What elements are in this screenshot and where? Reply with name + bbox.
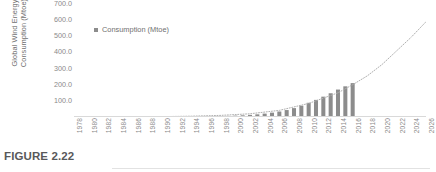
x-axis-tick: 2026 (429, 118, 436, 133)
y-axis-tick-labels: 700.0600.0500.0400.0300.0200.0100.0 (36, 4, 72, 116)
x-axis-tick: 2024 (414, 118, 421, 133)
bar (321, 97, 325, 117)
figure-caption: FIGURE 2.22 (4, 150, 74, 162)
y-axis-title: Global Wind Energy Consumption (Mtoe) (2, 0, 36, 88)
y-axis-tick: 600.0 (36, 17, 72, 24)
y-axis-tick: 500.0 (36, 33, 72, 40)
x-axis-tick-labels: 1978198019821984198619881990199219941996… (74, 118, 426, 148)
x-axis-tick: 2016 (356, 118, 363, 133)
x-axis-tick: 1992 (180, 118, 187, 133)
x-axis-tick: 1986 (136, 118, 143, 133)
x-axis-tick: 1996 (209, 118, 216, 133)
bar (343, 86, 347, 117)
x-axis-tick: 1988 (150, 118, 157, 133)
x-axis-tick: 2012 (326, 118, 333, 133)
bar (285, 110, 289, 117)
bar (292, 108, 296, 117)
wind-energy-consumption-chart: Global Wind Energy Consumption (Mtoe) 70… (0, 0, 432, 145)
x-axis-tick: 1998 (224, 118, 231, 133)
x-axis-tick: 2002 (253, 118, 260, 133)
legend-label-consumption: Consumption (Mtoe) (102, 26, 169, 34)
bar (299, 106, 303, 117)
bar (307, 103, 311, 117)
x-axis-tick: 1984 (121, 118, 128, 133)
caption-divider (112, 168, 430, 169)
y-axis-tick: 400.0 (36, 49, 72, 56)
x-axis-tick: 2004 (268, 118, 275, 133)
y-axis-tick: 700.0 (36, 0, 72, 7)
x-axis-tick: 2010 (312, 118, 319, 133)
legend-swatch-icon (94, 28, 98, 32)
x-axis-tick: 2014 (341, 118, 348, 133)
x-axis-tick: 1980 (92, 118, 99, 133)
x-axis-tick: 2020 (385, 118, 392, 133)
plot-area (74, 4, 426, 117)
bar (314, 100, 318, 117)
y-axis-tick: 300.0 (36, 65, 72, 72)
y-axis-tick: 100.0 (36, 97, 72, 104)
x-axis-tick: 2000 (238, 118, 245, 133)
bar-series (167, 83, 354, 117)
x-axis-tick: 2022 (400, 118, 407, 133)
chart-legend: Consumption (Mtoe) (94, 26, 169, 34)
plot-svg (74, 4, 426, 117)
x-axis-tick: 1978 (77, 118, 84, 133)
bar (351, 83, 355, 117)
x-axis-tick: 2018 (370, 118, 377, 133)
y-axis-tick: 200.0 (36, 81, 72, 88)
x-axis-tick: 1990 (165, 118, 172, 133)
x-axis-tick: 2006 (282, 118, 289, 133)
bar (329, 93, 333, 117)
x-axis-tick: 1982 (106, 118, 113, 133)
x-axis-tick: 1994 (194, 118, 201, 133)
trendline-path (74, 22, 426, 117)
x-axis-tick: 2008 (297, 118, 304, 133)
